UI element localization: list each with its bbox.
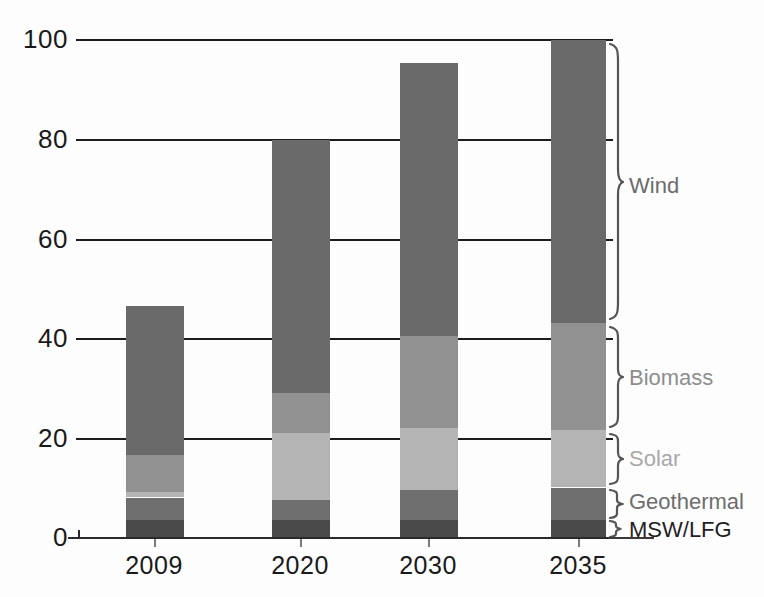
bar-segment-2035-solar bbox=[551, 430, 606, 487]
bar-segment-2020-mswlfg bbox=[272, 520, 330, 537]
bar-segment-2035-mswlfg bbox=[551, 520, 606, 537]
ytick-label-60: 60 bbox=[2, 226, 68, 252]
legend-label-mswlfg: MSW/LFG bbox=[629, 519, 732, 541]
xtick-mark-2035 bbox=[578, 539, 580, 547]
bar-segment-2009-wind bbox=[126, 306, 184, 455]
axis-baseline bbox=[68, 537, 613, 539]
bar-segment-2020-solar bbox=[272, 433, 330, 500]
xtick-mark-2030 bbox=[428, 539, 430, 547]
bar-segment-2009-solar bbox=[126, 492, 184, 497]
plot-area: 100 80 60 40 20 0 2009 2020 2030 2035 bbox=[0, 0, 764, 597]
bar-segment-2035-geothermal bbox=[551, 488, 606, 520]
gridline-100 bbox=[76, 39, 613, 41]
bar-2020[interactable] bbox=[272, 139, 330, 537]
legend-label-geothermal: Geothermal bbox=[629, 491, 744, 513]
xtick-label-2030: 2030 bbox=[368, 553, 488, 578]
ytick-label-0: 0 bbox=[2, 524, 68, 550]
stacked-bar-chart: 100 80 60 40 20 0 2009 2020 2030 2035 bbox=[0, 0, 764, 597]
bar-segment-2030-solar bbox=[400, 428, 458, 490]
ytick-label-80: 80 bbox=[2, 126, 68, 152]
zero-tick-mark bbox=[78, 530, 80, 539]
bar-segment-2035-biomass bbox=[551, 323, 606, 430]
bar-segment-2030-wind bbox=[400, 63, 458, 336]
gridline-80 bbox=[76, 139, 613, 141]
bar-segment-2009-geothermal bbox=[126, 498, 184, 520]
bar-segment-2009-biomass bbox=[126, 455, 184, 492]
bar-segment-2030-biomass bbox=[400, 336, 458, 428]
bar-segment-2020-wind bbox=[272, 140, 330, 393]
brace-biomass bbox=[608, 325, 624, 429]
ytick-label-20: 20 bbox=[2, 425, 68, 451]
bar-segment-2009-mswlfg bbox=[126, 520, 184, 537]
brace-wind bbox=[608, 42, 624, 321]
gridline-60 bbox=[76, 239, 613, 241]
brace-geothermal bbox=[608, 488, 624, 520]
ytick-label-40: 40 bbox=[2, 325, 68, 351]
bar-2009[interactable] bbox=[126, 306, 184, 537]
bar-2030[interactable] bbox=[400, 62, 458, 537]
brace-mswlfg bbox=[608, 520, 622, 538]
ytick-label-100: 100 bbox=[2, 26, 68, 52]
bar-segment-2020-biomass bbox=[272, 393, 330, 433]
bar-segment-2020-geothermal bbox=[272, 500, 330, 520]
bar-segment-2030-geothermal bbox=[400, 490, 458, 520]
xtick-label-2009: 2009 bbox=[94, 553, 214, 578]
bar-segment-2035-wind bbox=[551, 40, 606, 323]
xtick-mark-2009 bbox=[154, 539, 156, 547]
legend-label-biomass: Biomass bbox=[629, 367, 713, 389]
xtick-label-2035: 2035 bbox=[518, 553, 638, 578]
bar-2035[interactable] bbox=[551, 40, 606, 537]
legend-label-wind: Wind bbox=[629, 175, 679, 197]
xtick-label-2020: 2020 bbox=[240, 553, 360, 578]
brace-solar bbox=[608, 432, 624, 486]
legend-label-solar: Solar bbox=[629, 448, 680, 470]
bar-segment-2030-mswlfg bbox=[400, 520, 458, 537]
xtick-mark-2020 bbox=[300, 539, 302, 547]
